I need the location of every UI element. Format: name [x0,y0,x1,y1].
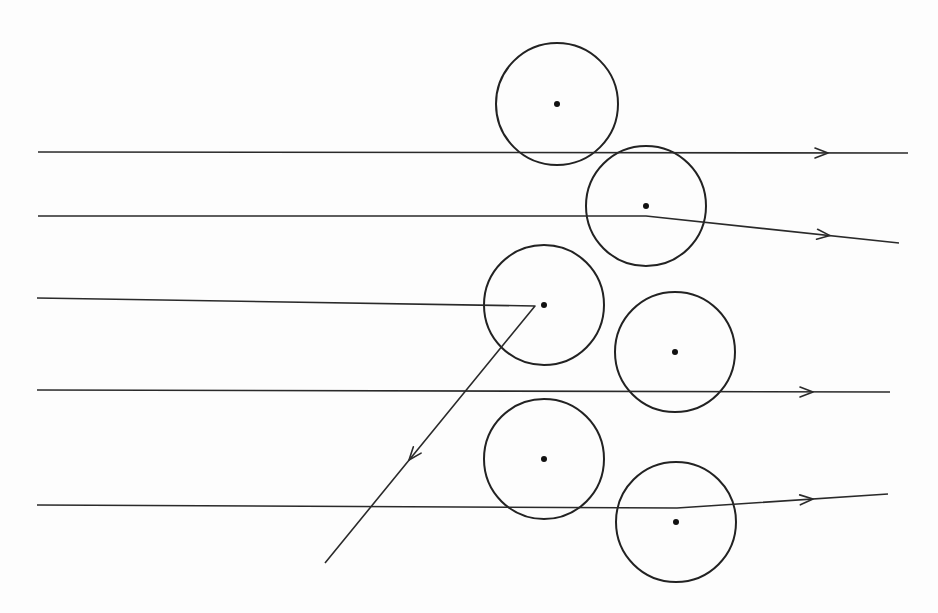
ray-1-undeflected [38,148,908,158]
trajectory-line [37,298,535,563]
trajectory-line [37,494,888,508]
ray-2-deflected [38,216,899,243]
trajectory-line [38,152,908,153]
nucleus-5 [484,399,604,519]
nucleus-dot [541,456,547,462]
nucleus-2 [586,146,706,266]
nucleus-dot [541,302,547,308]
nucleus-4 [615,292,735,412]
nucleus-dot [672,349,678,355]
trajectory-line [37,390,890,392]
ray-5-deflected [37,494,888,508]
nucleus-6 [616,462,736,582]
nucleus-1 [496,43,618,165]
scattering-diagram [0,0,938,613]
nucleus-dot [673,519,679,525]
nucleus-dot [643,203,649,209]
ray-3-backscattered [37,298,535,563]
trajectories-group [37,148,908,563]
ray-4-undeflected [37,387,890,397]
nuclei-group [484,43,736,582]
trajectory-line [38,216,899,243]
nucleus-dot [554,101,560,107]
